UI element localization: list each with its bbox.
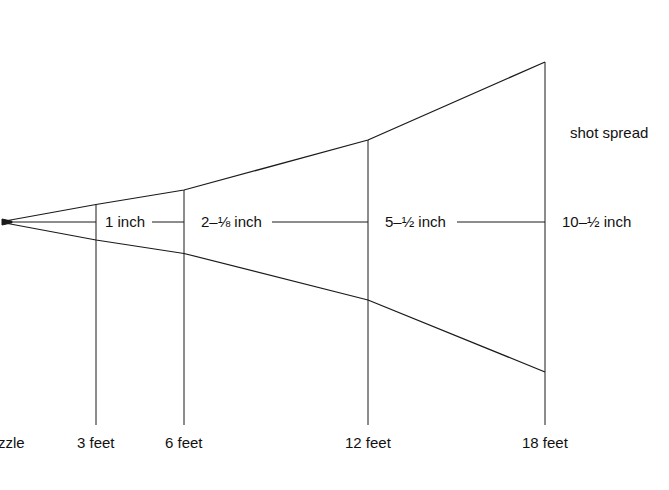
shot-spread-drawing <box>0 0 669 490</box>
distance-label-12ft: 12 feet <box>345 434 391 452</box>
shot-spread-annotation: shot spread <box>570 124 648 142</box>
spread-label-12ft: 5–½ inch <box>380 213 451 231</box>
distance-label-18ft: 18 feet <box>522 434 568 452</box>
shot-spread-diagram: 1 inch 2–⅛ inch 5–½ inch 10–½ inch shot … <box>0 0 669 490</box>
distance-label-6ft: 6 feet <box>165 434 203 452</box>
spread-label-18ft: 10–½ inch <box>557 213 636 231</box>
spread-label-6ft: 2–⅛ inch <box>196 213 267 231</box>
spread-label-3ft: 1 inch <box>100 213 150 231</box>
distance-label-muzzle: zzle <box>0 434 25 452</box>
cone-lower-boundary <box>5 223 545 372</box>
distance-label-3ft: 3 feet <box>77 434 115 452</box>
cone-upper-boundary <box>5 62 545 221</box>
